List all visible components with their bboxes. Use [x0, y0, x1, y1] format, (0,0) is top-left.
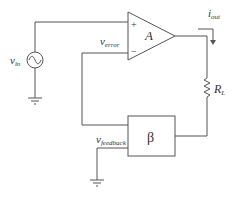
feedback-ground-wire	[97, 148, 128, 180]
circuit-diagram: vin + − A verror RL iout β vfeedback	[0, 0, 240, 199]
plus-input-label: +	[131, 19, 137, 30]
resistor-icon	[204, 78, 210, 97]
verror-label: verror	[100, 35, 120, 49]
beta-label: β	[147, 130, 154, 145]
iout-label: iout	[208, 7, 221, 21]
minus-input-label: −	[131, 46, 137, 57]
feedback-loop-wire	[82, 53, 128, 125]
ac-source-icon	[27, 52, 43, 68]
vfeedback-label: vfeedback	[96, 133, 127, 147]
ground-icon	[90, 180, 104, 186]
gain-label: A	[144, 28, 153, 43]
ground-icon	[28, 98, 42, 104]
return-wire	[175, 97, 207, 136]
rl-label: RL	[213, 82, 225, 97]
vin-label: vin	[10, 54, 21, 68]
output-wire	[175, 36, 207, 78]
